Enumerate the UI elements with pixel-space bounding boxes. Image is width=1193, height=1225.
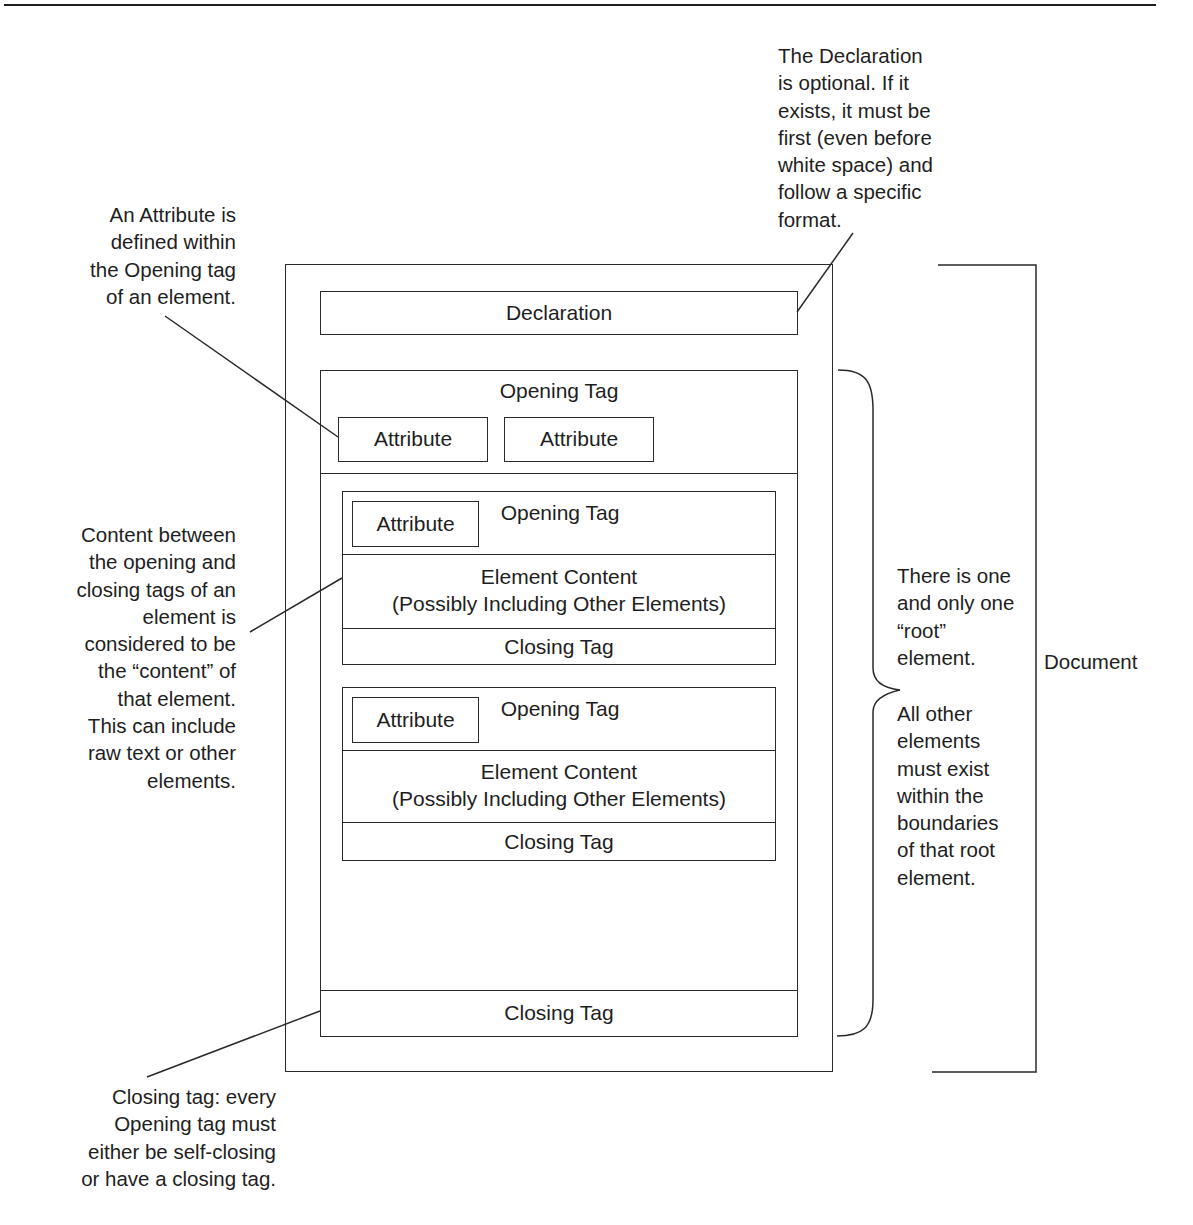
child-2-content-line2: (Possibly Including Other Elements)	[342, 786, 776, 812]
child-2-closing-divider	[342, 822, 776, 823]
child-2-opening-tag-label: Opening Tag	[480, 696, 640, 722]
root-opening-tag-label: Opening Tag	[320, 378, 798, 404]
child-1-content-line1: Element Content	[342, 564, 776, 590]
declaration-label: Declaration	[320, 300, 798, 326]
root-opening-tag-divider	[320, 473, 798, 474]
top-rule-divider	[4, 4, 1156, 6]
child-1-content-line2: (Possibly Including Other Elements)	[342, 591, 776, 617]
root-attribute-label-2: Attribute	[504, 426, 654, 452]
child-2-content-line1: Element Content	[342, 759, 776, 785]
child-1-attribute-label: Attribute	[352, 511, 479, 537]
child-1-opening-tag-label: Opening Tag	[480, 500, 640, 526]
root-note-one-root: There is one and only one “root” element…	[897, 562, 1037, 671]
root-note-boundaries: All other elements must exist within the…	[897, 700, 1037, 891]
child-1-closing-tag-label: Closing Tag	[342, 634, 776, 660]
root-closing-tag-label: Closing Tag	[320, 1000, 798, 1026]
document-label: Document	[1044, 649, 1137, 675]
content-note: Content between the opening and closing …	[30, 521, 236, 794]
root-attribute-label-1: Attribute	[338, 426, 488, 452]
root-curly-brace	[837, 370, 900, 1036]
child-2-closing-tag-label: Closing Tag	[342, 829, 776, 855]
child-1-closing-divider	[342, 628, 776, 629]
child-2-opening-divider	[342, 750, 776, 751]
child-2-attribute-label: Attribute	[352, 707, 479, 733]
child-1-opening-divider	[342, 554, 776, 555]
attribute-note: An Attribute is defined within the Openi…	[40, 201, 236, 310]
closing-tag-note: Closing tag: every Opening tag must eith…	[30, 1083, 276, 1192]
declaration-note: The Declaration is optional. If it exist…	[778, 42, 978, 233]
root-closing-tag-divider	[320, 990, 798, 991]
